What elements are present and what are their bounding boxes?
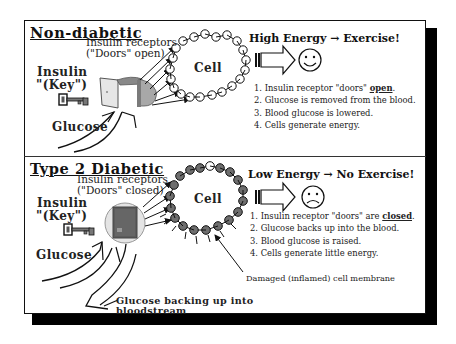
receptor-arrow: [155, 92, 180, 101]
glucose-label: Glucose: [52, 121, 108, 134]
step-item: 2. Glucose backs up into the blood.: [250, 222, 415, 234]
step-text: 2. Glucose backs up into the blood.: [250, 223, 399, 233]
open-door-receptor-icon: [100, 77, 156, 108]
step-emphasis: open: [370, 83, 393, 93]
step-item: 4. Cells generate little energy.: [250, 247, 415, 259]
receptor-arrow: [145, 220, 171, 226]
inflammation-tick: [196, 236, 197, 244]
closed-door-receptor-icon: [105, 203, 145, 243]
inflammation-tick: [172, 226, 176, 231]
big-right-arrow-icon: [255, 183, 295, 211]
glucose-arrowhead: [122, 112, 136, 128]
damaged-membrane-label: Damaged (inflamed) cell membrane: [246, 274, 395, 283]
insulin-key-icon: [59, 94, 88, 105]
step-text: 2. Glucose is removed from the blood.: [254, 95, 416, 105]
big-right-arrow-icon: [255, 46, 295, 74]
step-item: 3. Blood glucose is lowered.: [254, 107, 416, 119]
outcome-steps-list: 1. Insulin receptor "doors" are closed. …: [250, 210, 415, 260]
step-item: 4. Cells generate energy.: [254, 119, 416, 131]
step-suffix: .: [412, 211, 415, 221]
step-emphasis: closed: [382, 211, 412, 221]
energy-outcome-title: Low Energy → No Exercise!: [248, 168, 414, 181]
step-text: 3. Blood glucose is lowered.: [254, 108, 373, 118]
glucose-backup-label-line2: bloodstream: [116, 306, 187, 317]
step-text: 1. Insulin receptor "doors": [254, 83, 370, 93]
energy-outcome-title: High Energy → Exercise!: [249, 32, 400, 45]
insulin-key-icon: [64, 224, 94, 235]
step-item: 2. Glucose is removed from the blood.: [254, 94, 416, 106]
membrane-pointer-line: [215, 235, 243, 272]
receptor-label-line2: ("Doors" closed): [77, 185, 164, 197]
inflammation-tick: [231, 224, 236, 229]
diagram-canvas: Non-diabetic Insulin receptors ("Doors" …: [0, 0, 456, 344]
cell-label: Cell: [194, 193, 222, 206]
step-text: 4. Cells generate energy.: [254, 120, 360, 130]
step-suffix: .: [393, 83, 396, 93]
glucose-flow-line: [116, 247, 120, 262]
outcome-steps-list: 1. Insulin receptor "doors" open. 2. Glu…: [254, 82, 416, 132]
inflammation-tick: [220, 231, 224, 237]
step-text: 3. Blood glucose is raised.: [250, 236, 361, 246]
smiley-face-icon: [299, 49, 321, 71]
receptor-label-line2: ("Doors" open): [86, 48, 165, 60]
step-text: 1. Insulin receptor "doors" are: [250, 211, 382, 221]
membrane-bead: [170, 181, 179, 190]
inflammation-tick: [160, 214, 166, 217]
glucose-label: Glucose: [36, 249, 92, 262]
step-item: 1. Insulin receptor "doors" are closed.: [250, 210, 415, 222]
inflammation-tick: [185, 232, 186, 239]
key-label: "(Key"): [36, 79, 87, 92]
cell-label: Cell: [194, 62, 222, 75]
step-item: 1. Insulin receptor "doors" open.: [254, 82, 416, 94]
step-item: 3. Blood glucose is raised.: [250, 235, 415, 247]
key-label: "(Key"): [36, 210, 87, 223]
step-text: 4. Cells generate little energy.: [250, 248, 378, 258]
inflammation-tick: [208, 235, 210, 242]
frowny-face-icon: [302, 186, 324, 208]
